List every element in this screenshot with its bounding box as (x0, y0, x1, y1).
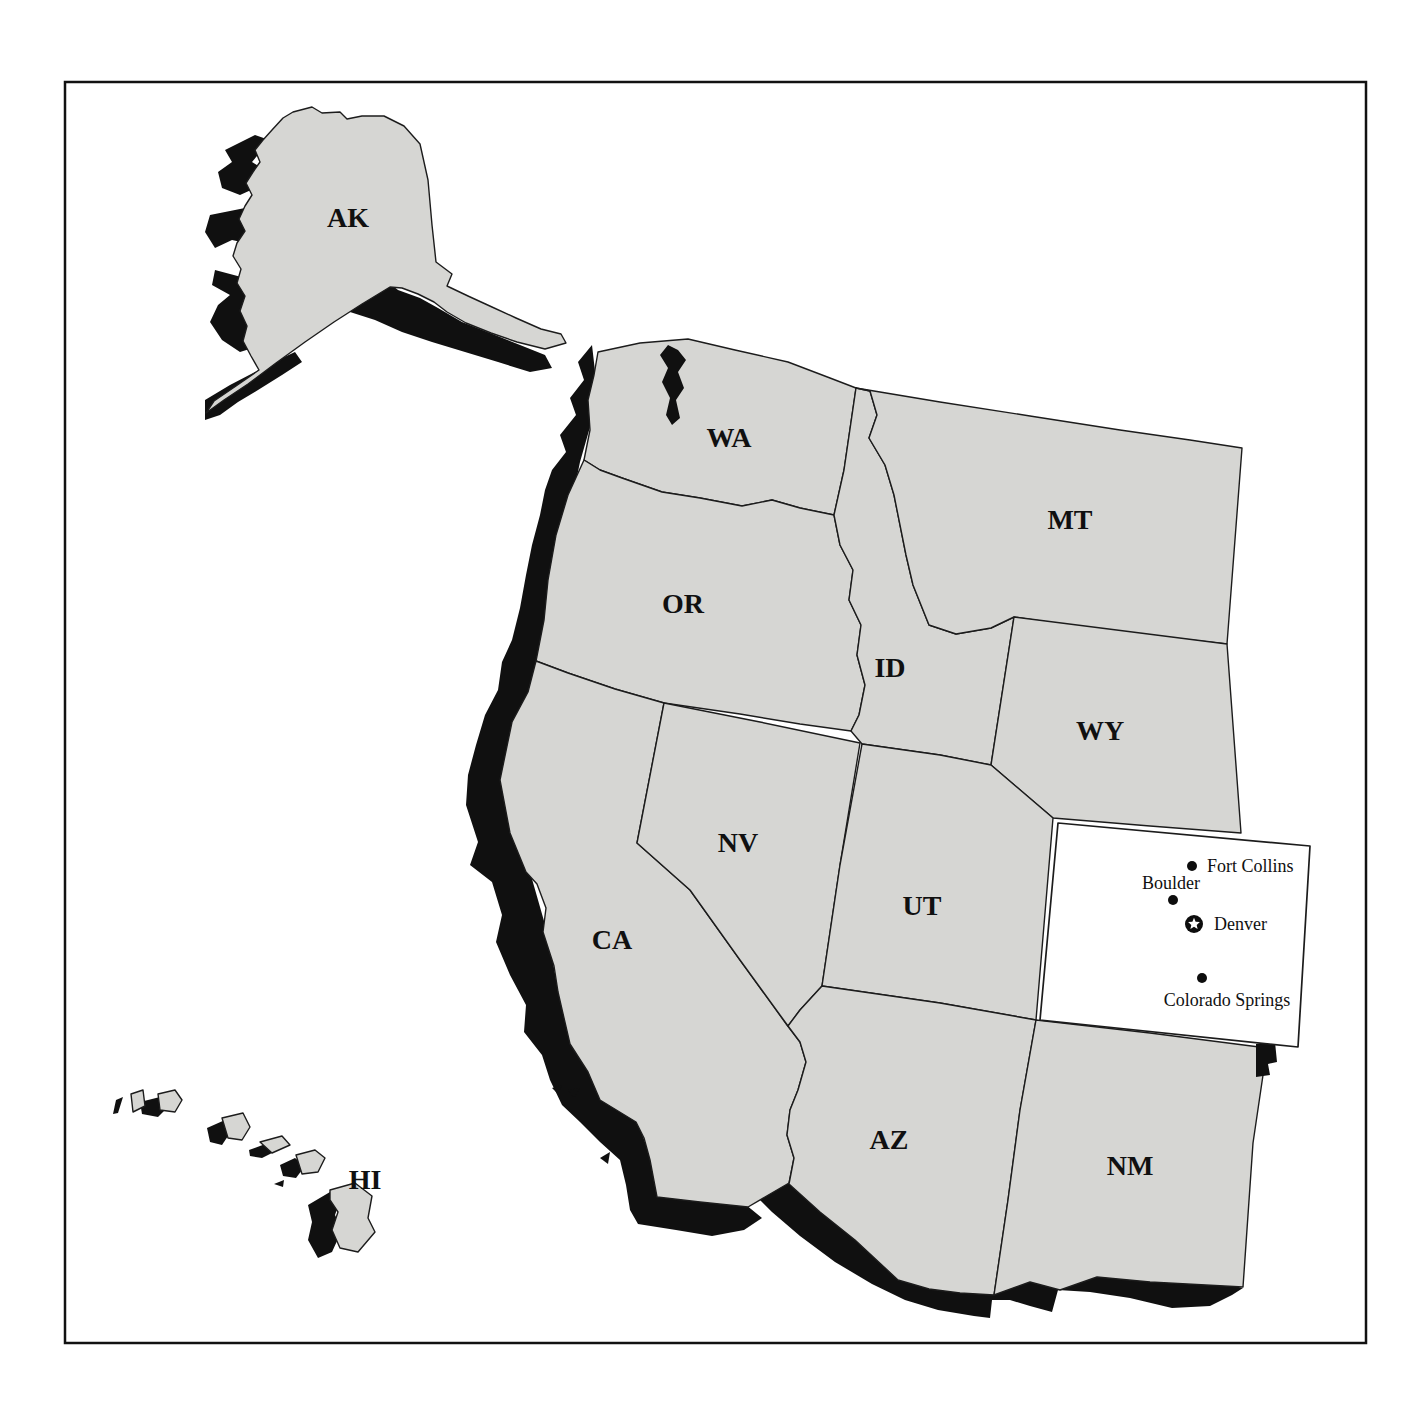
city-dot-boulder (1168, 895, 1178, 905)
city-dot-fort-collins (1187, 861, 1197, 871)
state-label-ut: UT (903, 890, 942, 921)
city-label-colorado-springs: Colorado Springs (1164, 990, 1291, 1010)
city-label-fort-collins: Fort Collins (1207, 856, 1294, 876)
state-label-or: OR (662, 588, 705, 619)
state-label-wa: WA (706, 422, 752, 453)
state-label-ca: CA (592, 924, 633, 955)
state-label-id: ID (874, 652, 905, 683)
state-label-nv: NV (718, 827, 758, 858)
state-label-wy: WY (1076, 715, 1124, 746)
state-label-az: AZ (870, 1124, 909, 1155)
map-figure: AK HI WA OR ID MT WY NV UT CA AZ NM Fort… (0, 0, 1426, 1422)
state-label-hi: HI (349, 1164, 382, 1195)
city-label-denver: Denver (1214, 914, 1267, 934)
state-label-mt: MT (1047, 504, 1092, 535)
state-label-nm: NM (1107, 1150, 1154, 1181)
city-label-boulder: Boulder (1142, 873, 1200, 893)
map-canvas: AK HI WA OR ID MT WY NV UT CA AZ NM Fort… (0, 0, 1426, 1422)
capital-star-icon (1185, 915, 1203, 933)
state-label-ak: AK (327, 202, 369, 233)
city-dot-colorado-springs (1197, 973, 1207, 983)
